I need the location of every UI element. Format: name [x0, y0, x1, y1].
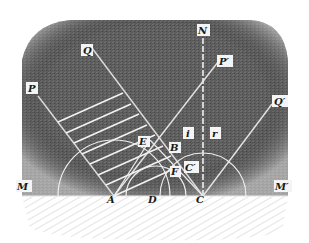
label-i: i [183, 127, 194, 139]
svg-text:M: M [16, 181, 29, 192]
label-C-prime: C′ [184, 161, 199, 173]
label-A: A [106, 194, 115, 205]
svg-text:A: A [106, 194, 115, 205]
svg-text:Q: Q [83, 45, 92, 56]
svg-text:C′: C′ [185, 162, 196, 173]
label-Q-prime: Q′ [272, 95, 288, 107]
svg-text:P′: P′ [218, 56, 230, 67]
label-M: M [16, 180, 32, 192]
svg-text:F: F [170, 166, 179, 177]
label-N: N [197, 24, 210, 36]
svg-text:r: r [212, 128, 218, 139]
label-B: B [169, 142, 181, 153]
svg-text:Q′: Q′ [274, 96, 286, 107]
svg-text:P: P [27, 83, 36, 94]
svg-text:i: i [186, 128, 190, 139]
svg-text:M′: M′ [274, 181, 289, 192]
svg-text:C: C [196, 194, 204, 205]
label-P-prime: P′ [217, 55, 233, 67]
label-D: D [147, 194, 157, 205]
reflection-diagram: P Q N P′ Q′ M M′ A D [0, 0, 309, 243]
svg-text:E: E [138, 136, 147, 147]
label-Q: Q [81, 44, 93, 56]
svg-text:B: B [169, 142, 178, 153]
label-M-prime: M′ [274, 180, 292, 192]
label-F: F [170, 166, 181, 177]
label-E: E [138, 136, 150, 147]
label-P: P [26, 82, 38, 94]
label-C: C [196, 194, 204, 205]
label-r: r [210, 127, 221, 139]
svg-text:D: D [147, 194, 157, 205]
svg-text:N: N [197, 25, 208, 36]
